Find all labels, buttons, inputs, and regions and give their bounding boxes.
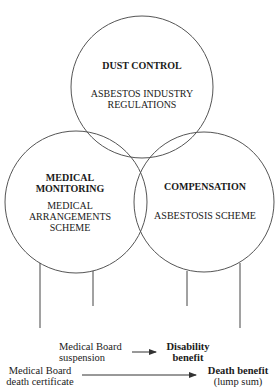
dust-control-subtitle-1: ASBESTOS INDUSTRY bbox=[82, 88, 202, 99]
death-certificate-line-2: death certificate bbox=[0, 376, 80, 387]
medical-monitoring-subtitle-1: MEDICAL bbox=[20, 200, 120, 211]
compensation-title: COMPENSATION bbox=[155, 181, 255, 192]
medical-monitoring-subtitle-2: ARRANGEMENTS bbox=[20, 211, 120, 222]
venn-diagram bbox=[0, 0, 278, 390]
death-benefit-line-2: (lump sum) bbox=[198, 376, 278, 387]
dust-control-circle bbox=[71, 16, 213, 158]
medical-monitoring-subtitle-3: SCHEME bbox=[20, 222, 120, 233]
compensation-subtitle: ASBESTOSIS SCHEME bbox=[145, 210, 265, 221]
suspension-line-1: Medical Board bbox=[59, 341, 129, 352]
medical-monitoring-title-2: MONITORING bbox=[20, 183, 120, 194]
compensation-circle bbox=[134, 132, 274, 272]
suspension-line-2: suspension bbox=[59, 352, 129, 363]
disability-line-2: benefit bbox=[158, 352, 218, 363]
medical-board-suspension: Medical Board suspension bbox=[59, 341, 129, 363]
dust-control-title: DUST CONTROL bbox=[92, 60, 192, 71]
disability-benefit: Disability benefit bbox=[158, 341, 218, 363]
death-benefit: Death benefit (lump sum) bbox=[198, 365, 278, 387]
death-benefit-line-1: Death benefit bbox=[198, 365, 278, 376]
disability-line-1: Disability bbox=[158, 341, 218, 352]
death-certificate-line-1: Medical Board bbox=[0, 365, 80, 376]
medical-board-death-certificate: Medical Board death certificate bbox=[0, 365, 80, 387]
medical-monitoring-title-1: MEDICAL bbox=[20, 172, 120, 183]
dust-control-subtitle-2: REGULATIONS bbox=[82, 99, 202, 110]
